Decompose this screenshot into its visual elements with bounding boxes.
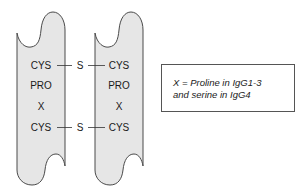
- legend-line-1: X = Proline in IgG1-3: [173, 77, 261, 89]
- right-residue-pro: PRO: [108, 80, 130, 91]
- bond-sulfur-label: S: [77, 60, 84, 71]
- left-residue-pro: PRO: [30, 80, 52, 91]
- left-residue-cys-bottom: CYS: [31, 122, 52, 133]
- left-residue-x: X: [38, 101, 45, 112]
- right-residue-cys-bottom: CYS: [109, 122, 130, 133]
- right-residue-cys-top: CYS: [109, 60, 130, 71]
- legend-line-2: and serine in IgG4: [173, 89, 261, 101]
- legend-text: X = Proline in IgG1-3 and serine in IgG4: [173, 77, 261, 101]
- right-residue-x: X: [116, 101, 123, 112]
- bond-sulfur-label: S: [77, 122, 84, 133]
- legend-box: X = Proline in IgG1-3 and serine in IgG4: [161, 64, 295, 112]
- left-heavy-chain: [17, 12, 65, 185]
- right-heavy-chain: [95, 12, 143, 185]
- right-chain-shape: [95, 12, 143, 185]
- left-chain-shape: [17, 12, 65, 185]
- left-residue-cys-top: CYS: [31, 60, 52, 71]
